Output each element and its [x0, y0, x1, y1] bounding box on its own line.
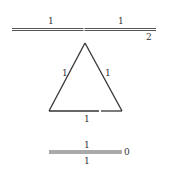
- top-edge-right-label: 1: [118, 16, 124, 26]
- triangle-left-side-label: 1: [62, 68, 68, 78]
- triangle-base-label: 1: [84, 114, 90, 124]
- triangle-right-side-label: 1: [105, 68, 111, 78]
- bottom-edge-bottom-label: 1: [84, 156, 90, 166]
- top-edge-left-label: 1: [48, 16, 54, 26]
- diagram-canvas: 1 1 2 1 1 1 1 1 0: [0, 0, 169, 172]
- bottom-edge-end-label: 0: [124, 147, 130, 157]
- top-edge-end-label: 2: [146, 32, 152, 42]
- triangle: [49, 43, 122, 111]
- bottom-edge: [49, 151, 122, 153]
- top-edge: [12, 27, 156, 32]
- bottom-edge-top-label: 1: [84, 140, 90, 150]
